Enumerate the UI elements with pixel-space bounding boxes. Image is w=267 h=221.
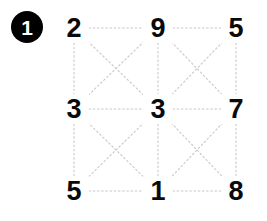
grid-digit-r2c1[interactable]: 1 [143, 176, 173, 206]
grid-digit-r1c0[interactable]: 3 [59, 94, 89, 124]
grid-digit-r1c1[interactable]: 3 [143, 94, 173, 124]
grid-digit-r0c1[interactable]: 9 [143, 13, 173, 43]
grid-digit-r1c2[interactable]: 7 [221, 94, 251, 124]
puzzle-canvas: 1 295337518 [0, 0, 267, 221]
grid-digit-r0c2[interactable]: 5 [221, 13, 251, 43]
grid-digit-r2c0[interactable]: 5 [59, 176, 89, 206]
grid-digit-r2c2[interactable]: 8 [221, 176, 251, 206]
grid-digit-r0c0[interactable]: 2 [59, 13, 89, 43]
